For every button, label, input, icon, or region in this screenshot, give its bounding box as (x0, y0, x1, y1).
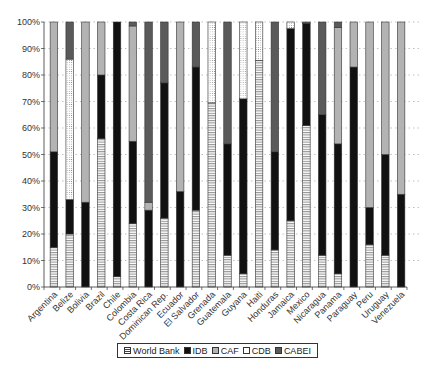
segment-cabei (224, 22, 232, 144)
segment-idb (161, 83, 169, 218)
segment-caf (382, 22, 390, 155)
segment-world-bank (303, 125, 311, 287)
segment-caf (366, 22, 374, 208)
segment-idb (176, 192, 184, 287)
segment-idb (192, 67, 200, 210)
segment-world-bank (66, 234, 74, 287)
segment-world-bank (50, 247, 58, 287)
bar-bolivia (82, 22, 90, 287)
segment-idb (82, 202, 90, 287)
segment-idb (334, 144, 342, 274)
segment-idb (350, 67, 358, 287)
legend-label: CABEI (284, 346, 311, 356)
legend-label: CAF (221, 346, 239, 356)
bar-haiti (255, 22, 263, 287)
bar-chile (113, 22, 121, 287)
segment-world-bank (224, 255, 232, 287)
segment-cabei (334, 22, 342, 27)
segment-idb (382, 155, 390, 256)
segment-idb (271, 152, 279, 250)
segment-world-bank (192, 210, 200, 287)
y-axis-labels: 0%10%20%30%40%50%60%70%80%90%100% (17, 17, 40, 292)
bar-guatemala (224, 22, 232, 287)
segment-cdb (287, 22, 295, 29)
segment-world-bank (208, 103, 216, 287)
legend-label: IDB (193, 346, 208, 356)
y-tick-label: 90% (22, 44, 40, 54)
segment-idb (224, 144, 232, 255)
segment-cabei (129, 22, 137, 26)
bar-panama (334, 22, 342, 287)
segment-idb (287, 29, 295, 221)
bar-nicaragua (318, 22, 326, 287)
segment-world-bank (318, 255, 326, 287)
segment-idb (318, 115, 326, 255)
bar-peru (366, 22, 374, 287)
bar-brazil (97, 22, 105, 287)
y-tick-label: 80% (22, 70, 40, 80)
bar-jamaica (287, 22, 295, 287)
segment-idb (97, 75, 105, 139)
segment-world-bank (240, 274, 248, 287)
y-tick-label: 100% (17, 17, 40, 27)
y-tick-label: 40% (22, 176, 40, 186)
y-tick-label: 60% (22, 123, 40, 133)
y-tick-label: 50% (22, 150, 40, 160)
cdb-swatch-icon (243, 347, 250, 354)
segment-caf (82, 22, 90, 202)
bar-colombia (129, 22, 137, 287)
cabei-swatch-icon (275, 347, 282, 354)
bars (50, 22, 405, 287)
segment-idb (366, 208, 374, 245)
segment-cabei (66, 22, 74, 59)
bar-paraguay (350, 22, 358, 287)
bar-uruguay (382, 22, 390, 287)
segment-world-bank (255, 60, 263, 287)
segment-idb (129, 141, 137, 223)
segment-world-bank (366, 245, 374, 287)
segment-world-bank (129, 223, 137, 287)
segment-caf (50, 22, 58, 152)
bar-dominican-rep- (161, 22, 169, 287)
bar-costa-rica (145, 22, 153, 287)
bar-mexico (303, 22, 311, 287)
segment-caf (350, 22, 358, 67)
legend-label: World Bank (133, 346, 179, 356)
segment-world-bank (97, 139, 105, 287)
segment-world-bank (113, 276, 121, 287)
stacked-bar-chart: 0%10%20%30%40%50%60%70%80%90%100% Argent… (0, 0, 433, 378)
y-tick-label: 10% (22, 256, 40, 266)
caf-swatch-icon (212, 347, 219, 354)
segment-idb (50, 152, 58, 247)
bar-ecuador (176, 22, 184, 287)
segment-world-bank (287, 221, 295, 287)
x-axis-labels: ArgentinaBelizeBoliviaBrazilChileColombi… (25, 289, 407, 342)
segment-cdb (240, 22, 248, 99)
segment-cabei (192, 22, 200, 67)
segment-caf (97, 22, 105, 75)
segment-caf (334, 27, 342, 144)
segment-idb (66, 200, 74, 234)
y-tick-label: 20% (22, 229, 40, 239)
bar-grenada (208, 22, 216, 287)
idb-swatch-icon (184, 347, 191, 354)
segment-idb (113, 22, 121, 276)
legend: World Bank IDB CAF CDB CABEI (117, 343, 318, 358)
segment-caf (145, 202, 153, 210)
segment-caf (397, 22, 405, 194)
segment-caf (176, 22, 184, 192)
segment-cabei (271, 22, 279, 152)
bar-el-salvador (192, 22, 200, 287)
y-tick-label: 30% (22, 203, 40, 213)
y-tick-label: 0% (27, 282, 40, 292)
segment-cdb (255, 22, 263, 60)
segment-idb (303, 23, 311, 125)
segment-world-bank (161, 218, 169, 287)
segment-cabei (145, 22, 153, 202)
segment-cabei (161, 22, 169, 83)
legend-item-cabei: CABEI (275, 346, 311, 356)
bar-belize (66, 22, 74, 287)
segment-idb (240, 99, 248, 274)
y-tick-label: 70% (22, 97, 40, 107)
world-bank-swatch-icon (124, 347, 131, 354)
